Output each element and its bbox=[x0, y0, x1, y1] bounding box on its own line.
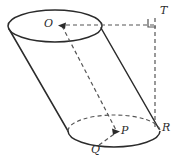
left-slant-edge bbox=[9, 29, 68, 131]
right-slant-edge bbox=[101, 28, 159, 129]
point-label-O: O bbox=[44, 18, 53, 29]
arrow-to-P-icon bbox=[112, 129, 120, 136]
bottom-ellipse-back-arc bbox=[68, 115, 160, 131]
point-label-R: R bbox=[162, 122, 170, 133]
cylinder-diagram-svg bbox=[0, 0, 174, 163]
arrow-to-O-icon bbox=[58, 23, 66, 30]
axis-O-to-P bbox=[62, 26, 116, 130]
top-ellipse-outline bbox=[8, 10, 102, 42]
geometry-figure: O T P Q R bbox=[0, 0, 174, 163]
point-label-Q: Q bbox=[91, 144, 100, 155]
point-label-P: P bbox=[121, 125, 128, 136]
point-label-T: T bbox=[160, 5, 167, 16]
